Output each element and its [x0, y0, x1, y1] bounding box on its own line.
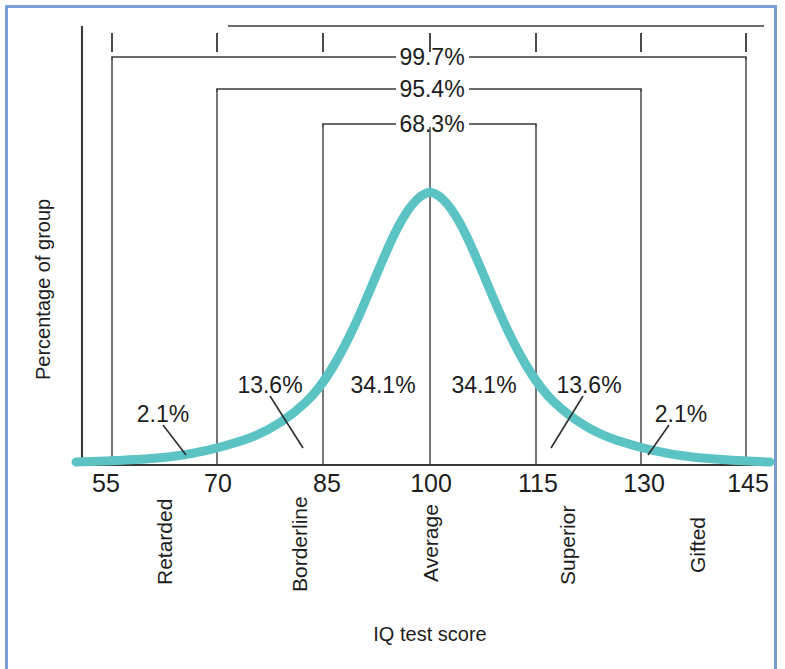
bracket-99-7-path-right — [469, 57, 746, 60]
bracket-95-4-path-right — [469, 89, 641, 92]
segment-label-2-1-left: 2.1% — [137, 401, 189, 427]
leader-line-2-1-left — [163, 425, 186, 455]
x-tick-label-70: 70 — [204, 469, 232, 497]
category-label-retarded: Retarded — [153, 499, 176, 585]
bracket-95-4: 95.4% — [217, 76, 641, 102]
segment-label-2-1-right: 2.1% — [655, 401, 707, 427]
category-label-superior: Superior — [556, 506, 579, 585]
x-tick-label-115: 115 — [518, 469, 558, 497]
bracket-99-7-label: 99.7% — [399, 44, 464, 70]
x-tick-label-85: 85 — [313, 469, 341, 497]
x-tick-label-55: 55 — [92, 469, 120, 497]
category-labels: Retarded Borderline Average Superior Gif… — [153, 496, 709, 592]
bracket-68-3-path-left — [323, 124, 396, 127]
figure-root: 99.7% 95.4% 68.3% 2.1% 13.6% 34.1% — [0, 0, 785, 669]
bracket-68-3: 68.3% — [323, 111, 536, 137]
bracket-99-7-path-left — [112, 57, 396, 60]
x-tick-label-130: 130 — [623, 469, 665, 497]
iq-distribution-chart: 99.7% 95.4% 68.3% 2.1% 13.6% 34.1% — [0, 0, 785, 669]
y-axis-title: Percentage of group — [32, 199, 54, 380]
segment-percentage-labels: 2.1% 13.6% 34.1% 34.1% 13.6% 2.1% — [137, 372, 707, 427]
bracket-99-7: 99.7% — [112, 44, 746, 70]
bracket-95-4-label: 95.4% — [399, 76, 464, 102]
x-axis-title: IQ test score — [373, 623, 486, 645]
bracket-68-3-path-right — [469, 124, 536, 127]
segment-label-34-1-right: 34.1% — [451, 372, 516, 398]
category-label-gifted: Gifted — [686, 517, 709, 573]
category-label-average: Average — [419, 504, 442, 582]
x-tick-label-100: 100 — [410, 469, 452, 497]
segment-label-13-6-right: 13.6% — [556, 372, 621, 398]
x-tick-labels: 55 70 85 100 115 130 145 — [92, 469, 769, 497]
segment-label-34-1-left: 34.1% — [350, 372, 415, 398]
bracket-68-3-label: 68.3% — [399, 111, 464, 137]
bracket-95-4-path-left — [217, 89, 396, 92]
category-label-borderline: Borderline — [288, 496, 311, 592]
segment-label-13-6-left: 13.6% — [237, 372, 302, 398]
x-tick-label-145: 145 — [727, 469, 769, 497]
